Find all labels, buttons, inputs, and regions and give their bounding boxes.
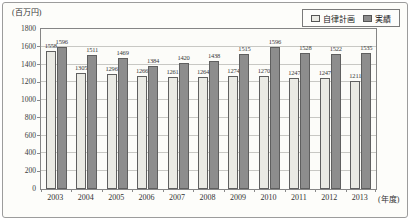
bar-plan — [320, 78, 330, 189]
x-tick — [254, 189, 255, 192]
x-tick-label: 2013 — [345, 193, 375, 202]
bar-actual — [179, 63, 189, 189]
x-axis-unit-label: (年度) — [378, 193, 399, 204]
bar-plan — [168, 77, 178, 189]
y-tick — [37, 100, 41, 101]
bar-plan — [198, 77, 208, 189]
x-tick — [102, 189, 103, 192]
bar-plan — [76, 73, 86, 189]
y-tick-label: 200 — [25, 166, 36, 175]
y-tick-label: 600 — [25, 131, 36, 140]
plot-area: 1558159613051511129614691266138412611420… — [40, 28, 377, 190]
bar-plan — [46, 51, 56, 189]
bar-actual — [209, 61, 219, 189]
x-tick — [132, 189, 133, 192]
x-tick-label: 2008 — [192, 193, 222, 202]
bar-value-label: 1596 — [264, 38, 286, 45]
y-tick — [37, 153, 41, 154]
y-tick — [37, 117, 41, 118]
actual-swatch-icon — [363, 15, 372, 22]
y-tick — [37, 82, 41, 83]
bar-value-label: 1535 — [355, 44, 377, 51]
x-tick-label: 2011 — [284, 193, 314, 202]
bar-plan — [107, 74, 117, 189]
chart-legend: 自律計画 実績 — [302, 9, 400, 27]
bar-plan — [289, 78, 299, 189]
bar-value-label: 1528 — [294, 44, 316, 51]
bar-value-label: 1515 — [233, 45, 255, 52]
bar-value-label: 1384 — [142, 57, 164, 64]
x-tick-label: 2005 — [101, 193, 131, 202]
x-tick — [71, 189, 72, 192]
y-tick-label: 800 — [25, 113, 36, 122]
x-tick-label: 2003 — [40, 193, 70, 202]
x-tick-label: 2007 — [162, 193, 192, 202]
x-tick — [163, 189, 164, 192]
x-tick — [285, 189, 286, 192]
x-tick-label: 2009 — [223, 193, 253, 202]
bar-actual — [118, 58, 128, 189]
legend-item-plan: 自律計画 — [311, 13, 355, 24]
bar-actual — [361, 53, 371, 189]
y-tick-label: 1000 — [21, 95, 36, 104]
bar-actual — [239, 54, 249, 189]
bar-actual — [57, 47, 67, 189]
legend-label-plan: 自律計画 — [323, 13, 355, 24]
bar-value-label: 1420 — [173, 54, 195, 61]
bar-actual — [87, 55, 97, 189]
y-axis-unit-label: (百万円) — [12, 6, 41, 17]
x-tick-label: 2012 — [314, 193, 344, 202]
y-tick-label: 1800 — [21, 24, 36, 33]
x-tick — [193, 189, 194, 192]
bar-plan — [259, 76, 269, 189]
y-tick — [37, 171, 41, 172]
bar-value-label: 1522 — [325, 45, 347, 52]
legend-label-actual: 実績 — [375, 13, 391, 24]
bar-plan — [137, 76, 147, 189]
y-tick-label: 1600 — [21, 42, 36, 51]
x-tick-label: 2010 — [253, 193, 283, 202]
x-tick — [41, 189, 42, 192]
plan-swatch-icon — [311, 15, 320, 22]
x-axis-labels: 2003200420052006200720082009201020112012… — [40, 193, 375, 205]
bar-value-label: 1438 — [203, 52, 225, 59]
y-tick-label: 0 — [32, 184, 36, 193]
bar-value-label: 1596 — [51, 38, 73, 45]
x-tick — [315, 189, 316, 192]
bar-value-label: 1469 — [112, 49, 134, 56]
x-tick-label: 2004 — [70, 193, 100, 202]
y-tick — [37, 64, 41, 65]
bar-actual — [270, 47, 280, 189]
bar-actual — [148, 66, 158, 189]
bar-actual — [300, 53, 310, 189]
x-tick-label: 2006 — [131, 193, 161, 202]
y-tick-label: 1400 — [21, 60, 36, 69]
legend-item-actual: 実績 — [363, 13, 391, 24]
y-tick-label: 1200 — [21, 77, 36, 86]
y-tick — [37, 135, 41, 136]
y-tick-label: 400 — [25, 148, 36, 157]
x-tick — [346, 189, 347, 192]
y-axis-labels: 020040060080010001200140016001800 — [0, 28, 36, 188]
x-tick — [375, 189, 376, 192]
bar-value-label: 1511 — [81, 46, 103, 53]
bar-plan — [350, 81, 360, 189]
bar-actual — [331, 54, 341, 189]
x-tick — [224, 189, 225, 192]
chart-figure: (百万円) 自律計画 実績 02004006008001000120014001… — [0, 0, 410, 220]
bar-plan — [228, 76, 238, 189]
